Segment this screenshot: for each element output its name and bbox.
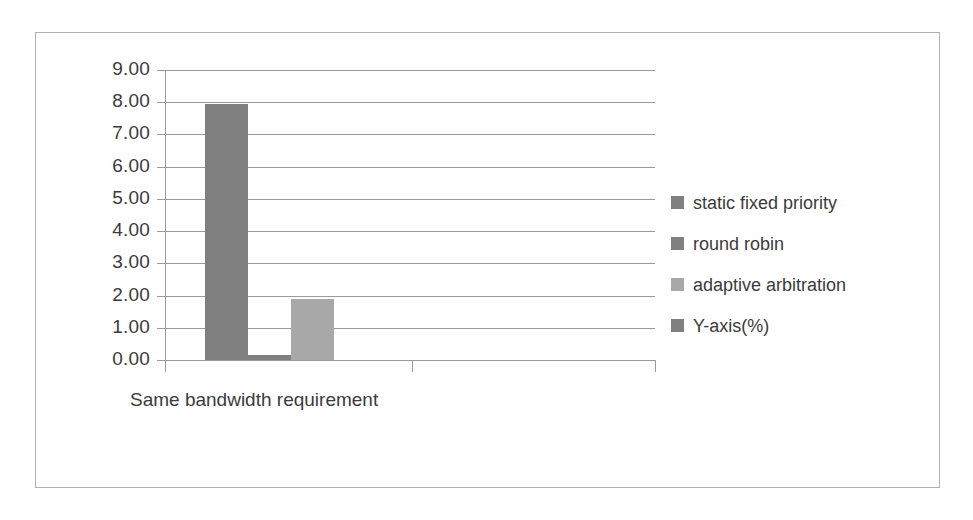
legend-item-label: Y-axis(%): [693, 316, 769, 336]
legend-item[interactable]: round robin: [671, 223, 846, 264]
legend-item[interactable]: Y-axis(%): [671, 305, 846, 346]
y-axis-tick: [157, 360, 165, 361]
bar: [248, 355, 291, 360]
legend-swatch-icon: [671, 319, 684, 332]
bar: [205, 104, 248, 360]
y-axis-tick-label: 5.00: [84, 188, 150, 207]
legend-item[interactable]: adaptive arbitration: [671, 264, 846, 305]
x-axis-category-label: Same bandwidth requirement: [130, 389, 378, 411]
y-axis-tick-label: 2.00: [84, 285, 150, 304]
legend-swatch-icon: [671, 196, 684, 209]
y-axis-tick-label: 6.00: [84, 156, 150, 175]
y-axis-tick: [157, 328, 165, 329]
legend-swatch-icon: [671, 237, 684, 250]
bar: [291, 299, 334, 360]
chart-figure: 9.008.007.006.005.004.003.002.001.000.00…: [0, 0, 973, 520]
x-axis-tick: [655, 360, 656, 372]
y-axis-tick-labels: 9.008.007.006.005.004.003.002.001.000.00: [80, 0, 150, 520]
y-axis-tick: [157, 102, 165, 103]
chart-legend: static fixed priorityround robinadaptive…: [671, 182, 846, 346]
y-axis-tick-label: 8.00: [84, 91, 150, 110]
y-axis-tick: [157, 167, 165, 168]
x-axis-line: [165, 360, 655, 361]
legend-swatch-icon: [671, 278, 684, 291]
y-axis-tick-label: 7.00: [84, 123, 150, 142]
x-axis-tick: [165, 360, 166, 372]
y-axis-tick-label: 0.00: [84, 349, 150, 368]
y-axis-tick: [157, 70, 165, 71]
y-axis-tick: [157, 134, 165, 135]
y-axis-tick: [157, 263, 165, 264]
legend-item-label: adaptive arbitration: [693, 275, 846, 295]
y-axis-tick-label: 3.00: [84, 252, 150, 271]
legend-item[interactable]: static fixed priority: [671, 182, 846, 223]
x-axis-tick: [412, 360, 413, 372]
y-axis-tick-label: 1.00: [84, 317, 150, 336]
legend-item-label: round robin: [693, 234, 784, 254]
y-axis-tick-label: 9.00: [84, 59, 150, 78]
y-axis-tick-label: 4.00: [84, 220, 150, 239]
legend-item-label: static fixed priority: [693, 193, 837, 213]
y-axis-tick: [157, 296, 165, 297]
bars-layer: [165, 70, 655, 360]
y-axis-tick: [157, 199, 165, 200]
y-axis-tick: [157, 231, 165, 232]
